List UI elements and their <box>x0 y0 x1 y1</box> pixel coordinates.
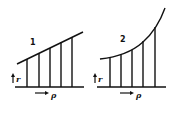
diagram-canvas: 1 r ρ 2 r ρ <box>0 0 175 113</box>
figure-2 <box>93 8 166 95</box>
figure-2-rho-label: ρ <box>135 90 142 100</box>
right-arrowhead-icon <box>130 91 134 95</box>
figure-1 <box>11 32 84 95</box>
up-arrowhead-icon <box>11 73 15 77</box>
figure-1-label: 1 <box>30 38 36 47</box>
figure-2-r-label: r <box>98 74 103 84</box>
up-arrowhead-icon <box>93 73 97 77</box>
figure-1-r-label: r <box>16 74 21 84</box>
right-arrowhead-icon <box>45 91 49 95</box>
figure-1-rho-label: ρ <box>50 90 57 100</box>
figure-2-label: 2 <box>120 35 126 44</box>
